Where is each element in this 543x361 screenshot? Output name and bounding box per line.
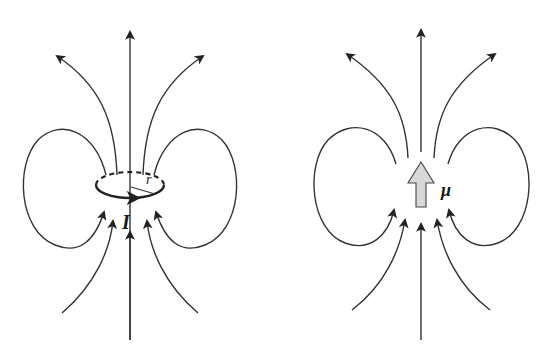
dipole-field-loop-right <box>448 128 529 246</box>
magnetic-moment-label: μ <box>441 180 451 201</box>
dipole-field-line-lower-left <box>352 220 405 310</box>
dipole-field-line-lower-right <box>437 220 490 310</box>
dipole-moment-arrow-icon <box>408 162 434 207</box>
dipole-field-line-upper-left <box>347 54 408 158</box>
field-line-lower-right <box>147 221 198 313</box>
left-panel-current-loop <box>23 32 236 340</box>
radius-label: r <box>146 172 151 188</box>
field-line-lower-left <box>62 221 113 313</box>
dipole-field-line-upper-right <box>434 54 495 158</box>
field-loop-right <box>154 129 237 248</box>
radius-line <box>131 187 155 194</box>
field-diagram <box>0 0 543 361</box>
dipole-field-loop-left <box>314 128 396 246</box>
field-loop-left <box>23 129 106 248</box>
field-line-upper-left <box>57 56 117 175</box>
field-line-upper-right <box>143 56 203 175</box>
current-label: I <box>122 211 130 234</box>
